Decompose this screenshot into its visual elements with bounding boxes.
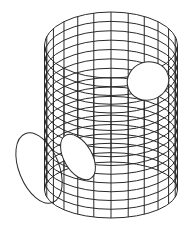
wireframe-cylinder [0,0,192,243]
cylinder-grid [45,12,178,218]
diagram-canvas [0,0,192,243]
